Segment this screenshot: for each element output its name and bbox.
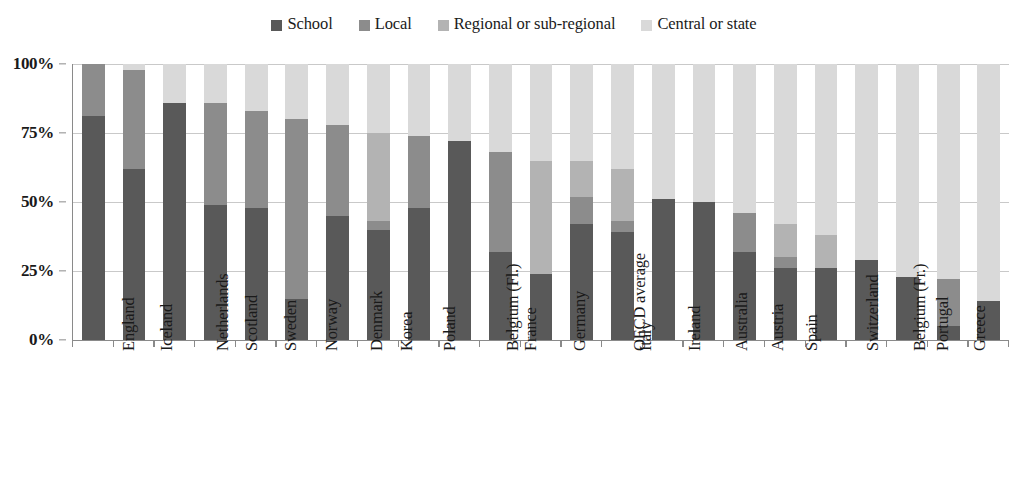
stacked-bar[interactable] [652, 64, 675, 340]
x-label-slot: Netherlands [153, 349, 194, 499]
x-axis-category-label: Denmark [367, 291, 387, 351]
legend-label: Local [375, 14, 412, 34]
bar-segment [123, 70, 146, 169]
stacked-bar[interactable] [163, 64, 186, 340]
stacked-bar[interactable] [530, 64, 553, 340]
bar-segment [937, 64, 960, 279]
x-label-slot: Denmark [316, 349, 357, 499]
x-axis-tick-mark [113, 340, 114, 347]
bar-segment [611, 221, 634, 232]
x-label-slot: England [72, 349, 113, 499]
bar-segment [204, 103, 227, 205]
x-axis-category-label: Korea [397, 312, 417, 351]
bar-segment [367, 64, 390, 133]
bar-slot [765, 64, 806, 340]
x-label-slot: Scotland [194, 349, 235, 499]
x-axis-category-label: Poland [440, 306, 460, 351]
bar-segment [285, 119, 308, 298]
stacked-bar[interactable] [408, 64, 431, 340]
x-axis-tick-mark [1008, 340, 1009, 347]
x-axis-category-label: Iceland [157, 304, 177, 351]
x-axis-tick-mark [845, 340, 846, 347]
x-axis-tick-mark [275, 340, 276, 347]
stacked-bar[interactable] [285, 64, 308, 340]
bar-segment [82, 116, 105, 340]
bar-slot [521, 64, 562, 340]
x-label-slot: Spain [764, 349, 805, 499]
legend-item: Local [359, 14, 412, 34]
x-label-slot: Ireland [642, 349, 683, 499]
x-axis-tick-mark [764, 340, 765, 347]
bar-segment [611, 64, 634, 169]
x-label-slot: Luxembourg [967, 349, 1008, 499]
bar-segment [163, 64, 186, 103]
legend-item: School [271, 14, 332, 34]
bar-segment [489, 64, 512, 152]
x-axis-category-label: Switzerland [863, 274, 883, 351]
x-axis-category-label: Italy [636, 322, 656, 351]
bar-segment [285, 64, 308, 119]
stacked-bar[interactable] [774, 64, 797, 340]
bar-segment [570, 161, 593, 197]
stacked-bar[interactable] [815, 64, 838, 340]
x-label-slot: Korea [357, 349, 398, 499]
bar-segment [489, 152, 512, 251]
bar-segment [815, 235, 838, 268]
stacked-bar[interactable] [448, 64, 471, 340]
bar-segment [408, 64, 431, 136]
bar-segment [611, 169, 634, 221]
x-label-slot: Sweden [235, 349, 276, 499]
bar-segment [977, 64, 1000, 301]
legend-swatch-icon [271, 20, 282, 31]
stacked-bar[interactable] [977, 64, 1000, 340]
x-axis-tick-mark [72, 340, 73, 347]
x-label-slot: Germany [520, 349, 561, 499]
bar-segment [774, 64, 797, 224]
bar-segment [652, 64, 675, 199]
legend-label: Central or state [657, 14, 756, 34]
bar-segment [448, 64, 471, 141]
bar-slot [684, 64, 725, 340]
stacked-bar[interactable] [693, 64, 716, 340]
y-axis-tick-mark [59, 201, 66, 202]
x-label-slot: Switzerland [805, 349, 846, 499]
x-axis-category-label: Norway [322, 299, 342, 351]
x-axis-category-label: Australia [732, 292, 752, 351]
bar-segment [326, 125, 349, 216]
x-axis-tick-mark [316, 340, 317, 347]
bar-slot [73, 64, 114, 340]
x-axis-category-label: England [119, 297, 139, 351]
bar-segment [530, 161, 553, 274]
x-label-slot: Portugal [886, 349, 927, 499]
bar-segment [652, 199, 675, 340]
x-axis-tick-mark [601, 340, 602, 347]
x-axis-category-label: Sweden [281, 300, 301, 351]
y-axis-tick-label: 25% [21, 261, 54, 281]
bar-segment [896, 64, 919, 277]
x-label-slot: Norway [276, 349, 317, 499]
bar-segment [733, 213, 756, 252]
x-axis-tick-mark [723, 340, 724, 347]
bar-segment [733, 64, 756, 213]
bar-segment [367, 221, 390, 229]
x-label-slot: Australia [683, 349, 724, 499]
bar-segment [774, 257, 797, 268]
y-axis-tick-label: 0% [29, 330, 54, 350]
x-axis-category-label: Spain [803, 314, 823, 351]
x-axis-category-label: Netherlands [213, 273, 233, 351]
x-axis-category-label: Portugal [934, 297, 954, 351]
y-axis-tick-mark [59, 339, 66, 340]
x-axis-tick-mark [967, 340, 968, 347]
x-axis-tick-mark [886, 340, 887, 347]
x-label-slot: France [479, 349, 520, 499]
y-axis-tick-label: 50% [21, 192, 54, 212]
x-axis-category-label: Ireland [685, 306, 705, 351]
bar-segment [367, 133, 390, 221]
chart-legend: SchoolLocalRegional or sub-regionalCentr… [0, 14, 1028, 34]
x-axis-category-label: Belgium (Fl.) [502, 264, 522, 351]
legend-swatch-icon [438, 20, 449, 31]
stacked-bar[interactable] [82, 64, 105, 340]
bar-segment [815, 64, 838, 235]
bar-segment [245, 111, 268, 208]
bar-segment [855, 64, 878, 260]
